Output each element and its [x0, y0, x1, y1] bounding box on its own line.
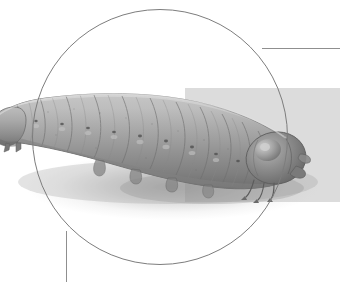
- caterpillar-illustration: [0, 0, 340, 282]
- figure-canvas: [0, 0, 340, 282]
